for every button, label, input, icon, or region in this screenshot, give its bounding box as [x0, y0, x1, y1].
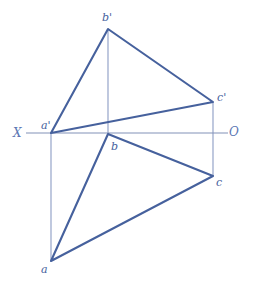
point-label-a-prime: a': [41, 120, 51, 131]
projection-drawing: X O a' b' c' a b c: [0, 0, 253, 295]
point-label-b: b: [111, 141, 118, 152]
point-label-c: c: [216, 177, 222, 188]
drawing-canvas: [0, 0, 253, 295]
triangle-frontal-projection: [51, 29, 213, 133]
point-label-c-prime: c': [217, 92, 226, 103]
point-label-a: a: [41, 264, 48, 275]
point-label-b-prime: b': [102, 12, 112, 23]
triangle-horizontal-projection: [51, 134, 213, 261]
axis-label-x: X: [13, 127, 22, 139]
axis-label-o: O: [229, 126, 239, 138]
